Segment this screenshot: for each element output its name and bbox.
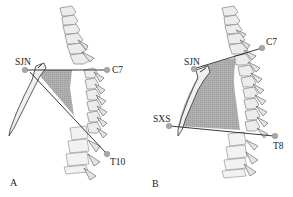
- sjn-marker-b: [191, 66, 197, 72]
- sternum-a: [9, 63, 46, 136]
- sxs-label-b: SXS: [153, 114, 170, 124]
- c7-label-a: C7: [112, 65, 123, 75]
- anatomy-figure: SJN C7 T10 A: [0, 0, 293, 197]
- t10-label-a: T10: [110, 157, 126, 167]
- thoracic-region-a: [35, 70, 76, 118]
- panel-a: SJN C7 T10 A: [9, 6, 126, 188]
- t8-marker-b: [272, 133, 278, 139]
- panel-b: SJN C7 SXS T8 B: [152, 6, 284, 189]
- sjn-label-a: SJN: [15, 57, 31, 67]
- c7-marker-a: [104, 67, 110, 73]
- c7-label-b: C7: [266, 37, 277, 47]
- sjn-marker-a: [22, 67, 28, 73]
- sjn-label-b: SJN: [184, 57, 200, 67]
- panel-label-a: A: [10, 177, 18, 188]
- panel-label-b: B: [152, 178, 159, 189]
- sxs-marker-b: [166, 123, 172, 129]
- c7-marker-b: [259, 45, 265, 51]
- t8-label-b: T8: [273, 141, 284, 151]
- t10-marker-a: [104, 151, 110, 157]
